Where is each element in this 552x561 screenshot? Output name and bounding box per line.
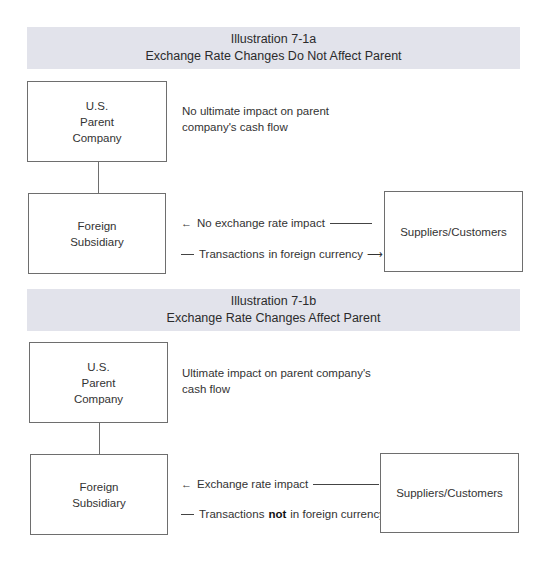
panel-a-inbound-flow: ← No exchange rate impact <box>181 216 372 230</box>
panel-a-subsidiary-box: Foreign Subsidiary <box>28 193 166 274</box>
panel-b-parent-box: U.S. Parent Company <box>29 342 168 423</box>
right-arrow-icon: ⟶ <box>367 247 383 261</box>
panel-b-subsidiary-box: Foreign Subsidiary <box>30 454 168 535</box>
parent-box-line3: Company <box>74 391 123 407</box>
panel-a-header: Illustration 7-1a Exchange Rate Changes … <box>27 27 520 69</box>
counterparty-label: Suppliers/Customers <box>400 224 507 240</box>
parent-note-line1: No ultimate impact on parent <box>182 103 329 119</box>
panel-b-title: Illustration 7-1b <box>27 293 520 310</box>
flow-line <box>330 223 372 224</box>
panel-a-connector-line <box>98 162 99 193</box>
panel-a-parent-note: No ultimate impact on parent company's c… <box>182 103 329 135</box>
panel-a-outbound-flow: Transactions in foreign currency ⟶ <box>181 247 383 261</box>
subsidiary-box-line1: Foreign <box>77 218 116 234</box>
panel-a-parent-box: U.S. Parent Company <box>27 81 167 162</box>
outbound-flow-prefix: Transactions <box>199 247 264 261</box>
parent-note-line1: Ultimate impact on parent company's <box>182 365 371 381</box>
panel-a-subtitle: Exchange Rate Changes Do Not Affect Pare… <box>27 48 520 65</box>
parent-box-line2: Parent <box>82 375 116 391</box>
outbound-flow-suffix: in foreign currency <box>268 247 363 261</box>
parent-box-line1: U.S. <box>86 98 108 114</box>
left-arrow-icon: ← <box>181 477 192 491</box>
inbound-flow-label: Exchange rate impact <box>197 477 308 491</box>
outbound-flow-suffix: in foreign currency <box>290 507 385 521</box>
flow-line <box>313 484 379 485</box>
subsidiary-box-line2: Subsidiary <box>70 234 124 250</box>
inbound-flow-label: No exchange rate impact <box>197 216 325 230</box>
panel-b-connector-line <box>99 423 100 454</box>
parent-box-line3: Company <box>72 130 121 146</box>
parent-note-line2: cash flow <box>182 381 371 397</box>
parent-box-line2: Parent <box>80 114 114 130</box>
flow-line <box>181 254 194 255</box>
panel-b-inbound-flow: ← Exchange rate impact <box>181 477 379 491</box>
panel-b-header: Illustration 7-1b Exchange Rate Changes … <box>27 289 520 331</box>
panel-a-title: Illustration 7-1a <box>27 31 520 48</box>
parent-box-line1: U.S. <box>87 359 109 375</box>
counterparty-label: Suppliers/Customers <box>396 485 503 501</box>
panel-b-subtitle: Exchange Rate Changes Affect Parent <box>27 310 520 327</box>
subsidiary-box-line2: Subsidiary <box>72 495 126 511</box>
subsidiary-box-line1: Foreign <box>79 479 118 495</box>
outbound-flow-emphasis: not <box>268 507 286 521</box>
left-arrow-icon: ← <box>181 216 192 230</box>
parent-note-line2: company's cash flow <box>182 119 329 135</box>
panel-b-suppliers-customers-box: Suppliers/Customers <box>380 453 519 533</box>
panel-a-suppliers-customers-box: Suppliers/Customers <box>384 191 523 272</box>
flow-line <box>181 514 194 515</box>
panel-b-parent-note: Ultimate impact on parent company's cash… <box>182 365 371 397</box>
outbound-flow-prefix: Transactions <box>199 507 264 521</box>
panel-b-outbound-flow: Transactions not in foreign currency → <box>181 507 397 521</box>
